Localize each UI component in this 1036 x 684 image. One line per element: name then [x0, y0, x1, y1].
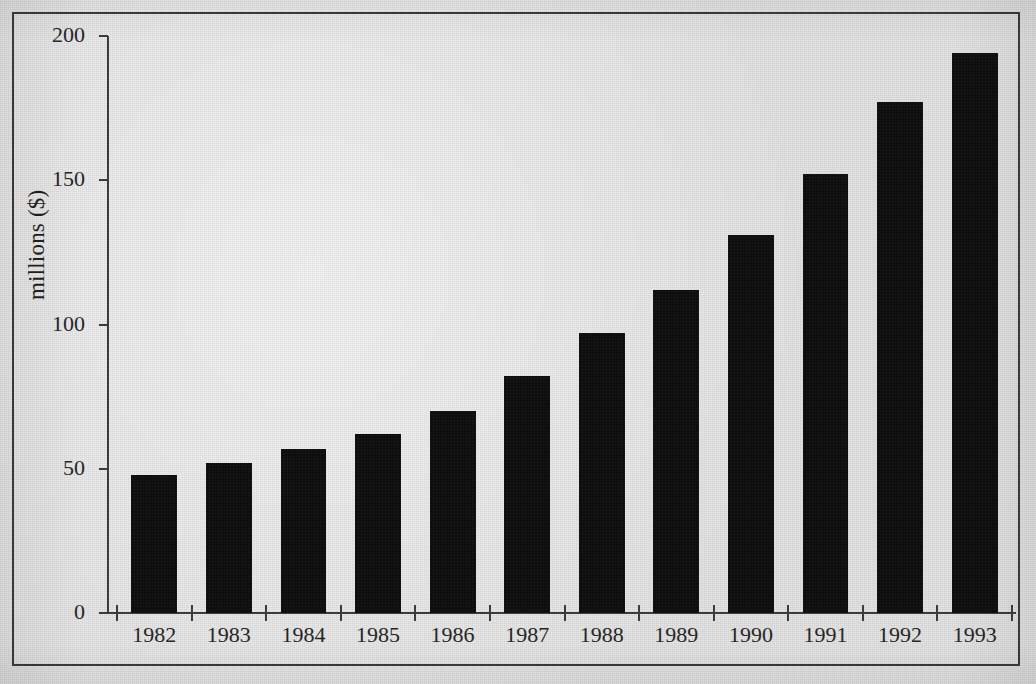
x-tick-label: 1989: [639, 622, 714, 648]
bar: [504, 376, 550, 613]
bar: [131, 475, 177, 613]
x-tick-label: 1992: [863, 622, 938, 648]
x-tick-label: 1993: [937, 622, 1012, 648]
bar: [952, 53, 998, 613]
y-tick-mark: [99, 324, 108, 326]
x-tick-label: 1985: [341, 622, 416, 648]
y-tick-label: 100: [0, 313, 99, 335]
bar-chart: millions ($) 050100150200 19821983198419…: [0, 0, 1036, 684]
y-tick-mark: [99, 468, 108, 470]
y-tick-label: 150: [0, 168, 99, 190]
x-tick-label: 1987: [490, 622, 565, 648]
x-tick-mark: [936, 605, 938, 621]
x-tick-label: 1991: [788, 622, 863, 648]
bar: [281, 449, 327, 613]
bar: [803, 174, 849, 613]
y-tick-mark: [99, 612, 108, 614]
x-tick-mark: [862, 605, 864, 621]
x-tick-label: 1986: [415, 622, 490, 648]
y-tick-mark: [99, 179, 108, 181]
x-tick-mark: [713, 605, 715, 621]
bar: [579, 333, 625, 613]
y-tick-label: 0: [0, 601, 99, 623]
bar: [355, 434, 401, 613]
y-axis-title: millions ($): [24, 190, 50, 300]
x-tick-label: 1990: [714, 622, 789, 648]
x-tick-label: 1984: [266, 622, 341, 648]
y-tick-label: 50: [0, 457, 99, 479]
x-tick-mark: [340, 605, 342, 621]
x-tick-label: 1983: [192, 622, 267, 648]
bar: [653, 290, 699, 613]
x-tick-mark: [116, 605, 118, 621]
scanned-page: millions ($) 050100150200 19821983198419…: [0, 0, 1036, 684]
x-tick-mark: [414, 605, 416, 621]
x-tick-label: 1982: [117, 622, 192, 648]
bar: [728, 235, 774, 613]
x-tick-mark: [265, 605, 267, 621]
x-tick-label: 1988: [565, 622, 640, 648]
x-tick-mark: [787, 605, 789, 621]
bar: [430, 411, 476, 613]
bar: [206, 463, 252, 613]
x-tick-mark: [1011, 605, 1013, 621]
y-tick-label: 200: [0, 24, 99, 46]
x-tick-mark: [191, 605, 193, 621]
x-tick-mark: [564, 605, 566, 621]
bar: [877, 102, 923, 613]
x-tick-mark: [489, 605, 491, 621]
x-tick-mark: [638, 605, 640, 621]
y-tick-mark: [99, 35, 108, 37]
